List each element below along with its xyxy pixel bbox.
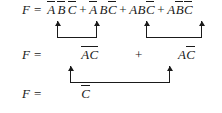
arrow-up-icon xyxy=(68,66,74,71)
literal-a-bar: A xyxy=(89,2,97,18)
row-1-term-1: ABC xyxy=(47,2,77,18)
grouping-bracket-row2 xyxy=(70,66,170,83)
literal-a: A xyxy=(178,47,186,63)
row-3-lhs: F xyxy=(22,86,30,102)
arrow-up-icon xyxy=(199,21,205,26)
row-2-operator-1: + xyxy=(132,47,144,63)
row-2-expression: AC+AC xyxy=(47,47,195,63)
literal-c-bar: C xyxy=(89,47,98,63)
literal-a: A xyxy=(167,2,175,18)
row-3-expression: C xyxy=(47,86,90,102)
row-1-term-2: ABC xyxy=(89,2,117,18)
row-1-operator-3: + xyxy=(155,2,167,18)
arrow-up-icon xyxy=(167,66,173,71)
literal-a-bar: A xyxy=(81,47,89,63)
row-1-operator-1: + xyxy=(77,2,89,18)
literal-a: A xyxy=(129,2,137,18)
equation-row-3: F = C xyxy=(0,86,222,106)
row-2-term-2: AC xyxy=(178,47,195,63)
row-1-term-4: ABC xyxy=(167,2,193,18)
row-2-equals-sign: = xyxy=(34,47,41,63)
row-1-lhs: F xyxy=(22,2,30,18)
grouping-bracket-term1-term2 xyxy=(57,21,97,38)
literal-c-bar: C xyxy=(68,2,77,18)
bracket-horizontal-line xyxy=(70,82,170,83)
row-2-term-1: AC xyxy=(81,47,98,63)
literal-c-bar: C xyxy=(146,2,155,18)
literal-b: B xyxy=(99,2,107,18)
grouping-bracket-term3-term4 xyxy=(146,21,202,38)
literal-c-bar: C xyxy=(108,2,117,18)
row-3-equals-sign: = xyxy=(34,86,41,102)
row-1-expression: ABC+ABC+ABC+ABC xyxy=(47,2,193,18)
literal-b: B xyxy=(137,2,145,18)
equation-row-2: F = AC+AC xyxy=(0,47,222,67)
row-2-lhs: F xyxy=(22,47,30,63)
literal-b-bar: B xyxy=(57,2,65,18)
row-1-equals-sign: = xyxy=(34,2,41,18)
literal-c-bar: C xyxy=(186,47,195,63)
arrow-up-icon xyxy=(94,21,100,26)
row-1-operator-2: + xyxy=(117,2,129,18)
boolean-simplification-diagram: F = ABC+ABC+ABC+ABC F = AC+AC xyxy=(0,0,222,113)
literal-c-bar: C xyxy=(184,2,193,18)
bracket-horizontal-line xyxy=(146,37,202,38)
row-1-term-3: ABC xyxy=(129,2,155,18)
literal-b-bar: B xyxy=(175,2,183,18)
literal-c-bar: C xyxy=(81,86,90,102)
literal-a-bar: A xyxy=(47,2,55,18)
equation-row-1: F = ABC+ABC+ABC+ABC xyxy=(0,2,222,22)
row-3-term-1: C xyxy=(81,86,90,102)
arrow-up-icon xyxy=(55,21,61,26)
arrow-up-icon xyxy=(144,21,150,26)
bracket-horizontal-line xyxy=(57,37,97,38)
